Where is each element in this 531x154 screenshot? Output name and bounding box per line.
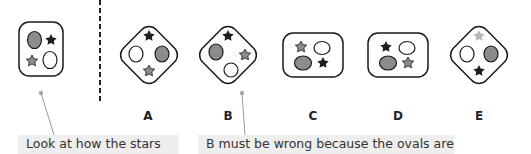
option-label-a: A (143, 109, 153, 123)
figure-e (446, 22, 511, 87)
white-oval (43, 52, 57, 69)
white-oval (399, 42, 415, 55)
option-label-b: B (223, 109, 232, 123)
option-label-e: E (475, 109, 483, 123)
figure-d (368, 33, 428, 77)
white-oval (224, 63, 238, 77)
white-oval (460, 46, 474, 62)
puzzle-diagram: A B C D E (0, 0, 531, 154)
figure-a (116, 22, 181, 87)
figure-frame (283, 33, 343, 77)
figure-frame (19, 22, 63, 76)
pointer-line (242, 93, 245, 135)
pointer-line (41, 93, 54, 135)
option-label-c: C (309, 109, 318, 123)
white-oval (129, 46, 143, 62)
annotation-note: Look at how the stars (18, 135, 179, 154)
figure-frame (368, 33, 428, 77)
grey-oval (209, 44, 223, 60)
figure-b (195, 22, 260, 87)
grey-oval (155, 46, 169, 62)
grey-oval (295, 56, 312, 70)
figure-c (283, 33, 343, 77)
question-figure (19, 22, 63, 76)
grey-oval (28, 32, 42, 49)
grey-oval (484, 46, 498, 62)
white-oval (314, 42, 330, 55)
option-label-d: D (393, 109, 403, 123)
grey-oval (380, 56, 397, 70)
annotation-note: B must be wrong because the ovals are (198, 135, 454, 154)
